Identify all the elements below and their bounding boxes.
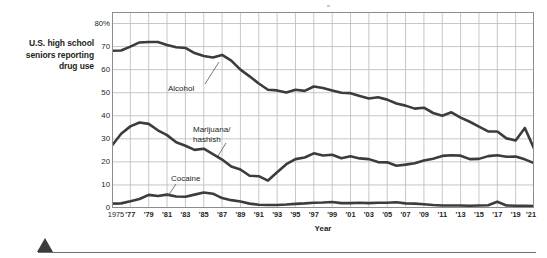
x-tick-label: '79 (144, 210, 154, 219)
y-tick-label: 50 (82, 89, 110, 97)
x-tick-label: '93 (272, 210, 282, 219)
series-label-cocaine: Cocaine (171, 174, 200, 184)
triangle-marker-icon (37, 238, 53, 252)
x-tick-label: '19 (511, 210, 521, 219)
decorative-speck (327, 5, 330, 7)
y-axis-tick-labels: 01020304050607080% (82, 12, 110, 208)
x-tick-label: '87 (217, 210, 227, 219)
x-tick-label: '21 (526, 210, 536, 219)
x-tick-label: '05 (382, 210, 392, 219)
x-tick-label: '97 (309, 210, 319, 219)
x-tick-label: '03 (364, 210, 374, 219)
footer-divider (38, 252, 536, 253)
x-tick-label: '01 (346, 210, 356, 219)
chart-figure: U.S. high school seniors reporting drug … (0, 0, 547, 258)
x-tick-label: '13 (456, 210, 466, 219)
x-tick-label: '89 (235, 210, 245, 219)
y-tick-label: 0 (82, 204, 110, 212)
x-tick-label: '95 (290, 210, 300, 219)
y-tick-label: 30 (82, 135, 110, 143)
x-tick-label: '99 (327, 210, 337, 219)
x-tick-label: '91 (254, 210, 264, 219)
x-axis-title: Year (112, 224, 534, 233)
x-tick-label: '83 (180, 210, 190, 219)
x-tick-label: '11 (437, 210, 447, 219)
x-tick-label: '85 (199, 210, 209, 219)
x-axis-tick-labels: 1975'77'79'81'83'85'87'89'91'93'95'97'99… (112, 210, 534, 222)
series-label-marijuana: Marijuana/ hashish (193, 125, 230, 144)
x-tick-label: '81 (162, 210, 172, 219)
y-tick-label: 10 (82, 181, 110, 189)
x-tick-label: '17 (492, 210, 502, 219)
x-tick-label: '07 (401, 210, 411, 219)
y-tick-label: 60 (82, 66, 110, 74)
series-label-alcohol: Alcohol (168, 84, 194, 94)
x-tick-label: '15 (474, 210, 484, 219)
y-tick-label: 20 (82, 158, 110, 166)
y-tick-label: 70 (82, 43, 110, 51)
x-tick-label: 1975 (108, 210, 124, 219)
y-tick-label: 40 (82, 112, 110, 120)
y-tick-label: 80% (82, 20, 110, 28)
x-tick-label: '77 (125, 210, 135, 219)
x-tick-label: '09 (419, 210, 429, 219)
